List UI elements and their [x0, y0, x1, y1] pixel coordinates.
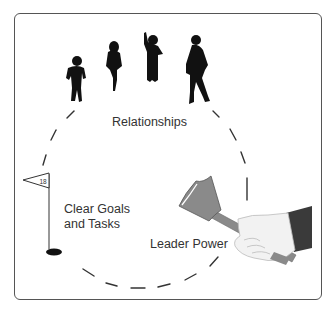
golf-flag-icon: 18	[23, 173, 62, 256]
golf-hole-icon	[46, 249, 62, 256]
diagram-artwork: 18	[0, 0, 336, 314]
people-silhouettes	[66, 32, 210, 104]
label-clear-goals-line1: Clear Goals	[64, 202, 130, 217]
label-leader-power: Leader Power	[150, 237, 228, 252]
person-silhouette-woman	[186, 35, 210, 104]
label-clear-goals-line2: and Tasks	[64, 217, 120, 232]
person-silhouette-girl	[106, 41, 122, 91]
flag-number: 18	[40, 178, 48, 185]
label-relationships: Relationships	[112, 115, 187, 130]
person-silhouette-boy-waving	[144, 32, 163, 82]
person-silhouette-child	[66, 56, 86, 102]
